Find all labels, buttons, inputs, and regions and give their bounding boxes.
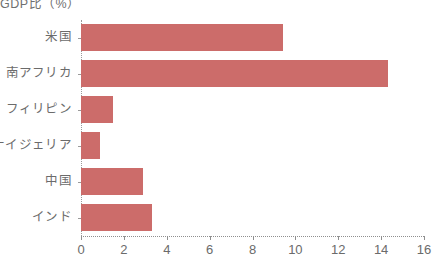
value-tick: [253, 236, 254, 240]
value-tick-label: 4: [163, 242, 170, 257]
bar: [81, 96, 113, 123]
category-label: 南アフリカ: [6, 60, 73, 87]
value-tick: [81, 236, 82, 240]
category-label: ナイジェリア: [0, 132, 72, 159]
bar: [81, 24, 283, 51]
plot-area: 米国南アフリカフィリピンナイジェリア中国インド: [81, 20, 424, 236]
chart-title: GDP比（%）: [0, 0, 81, 12]
category-label: フィリピン: [6, 96, 73, 123]
value-tick-label: 16: [417, 242, 431, 257]
value-tick-label: 14: [374, 242, 388, 257]
bar: [81, 60, 388, 87]
value-tick-label: 0: [77, 242, 84, 257]
bar-row: 南アフリカ: [81, 56, 424, 92]
category-label: 米国: [45, 24, 72, 51]
bar-row: 米国: [81, 20, 424, 56]
value-tick: [124, 236, 125, 240]
value-tick: [338, 236, 339, 240]
bar-row: フィリピン: [81, 92, 424, 128]
bar: [81, 168, 143, 195]
category-label: インド: [32, 204, 72, 231]
value-tick-label: 2: [120, 242, 127, 257]
value-tick: [167, 236, 168, 240]
value-tick: [381, 236, 382, 240]
bar-row: インド: [81, 200, 424, 236]
value-tick: [210, 236, 211, 240]
value-tick-label: 6: [206, 242, 213, 257]
value-tick-label: 8: [249, 242, 256, 257]
bar-row: ナイジェリア: [81, 128, 424, 164]
value-tick: [424, 236, 425, 240]
bar-chart: GDP比（%） 米国南アフリカフィリピンナイジェリア中国インド 02468101…: [0, 0, 433, 267]
value-tick-label: 12: [331, 242, 345, 257]
value-tick: [295, 236, 296, 240]
bar: [81, 132, 100, 159]
bar-row: 中国: [81, 164, 424, 200]
category-label: 中国: [45, 168, 72, 195]
value-tick-label: 10: [288, 242, 302, 257]
bar: [81, 204, 152, 231]
